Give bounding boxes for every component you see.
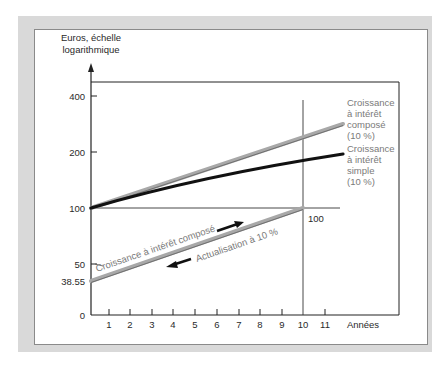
svg-text:Croissance: Croissance	[347, 143, 395, 154]
y-tick-50: 50	[74, 259, 85, 270]
svg-text:9: 9	[279, 319, 284, 330]
y-tick-400: 400	[69, 91, 85, 102]
svg-text:2: 2	[127, 319, 132, 330]
x-ticks	[109, 309, 325, 315]
svg-text:10: 10	[298, 319, 309, 330]
x-tick-labels: 1 2 3 4 5 6 7 8 9 10 11	[106, 319, 330, 330]
svg-text:à intérêt: à intérêt	[347, 108, 382, 119]
discount-line-shadow	[91, 210, 303, 283]
y-tick-100: 100	[69, 203, 85, 214]
svg-text:à intérêt: à intérêt	[347, 154, 382, 165]
growth-label: Croissance à intérêt composé	[94, 223, 216, 274]
compound-growth-line	[91, 124, 343, 208]
y-tick-0: 0	[80, 310, 85, 321]
y-axis-arrow-icon	[88, 63, 94, 72]
y-tick-200: 200	[69, 147, 85, 158]
svg-text:(10 %): (10 %)	[347, 176, 375, 187]
y-tick-38-55: 38.55	[61, 276, 85, 287]
y-axis-label-line1: Euros, échelle	[61, 32, 121, 43]
y-axis-label-line2: logarithmique	[62, 44, 119, 55]
svg-text:(10 %): (10 %)	[347, 130, 375, 141]
svg-text:5: 5	[192, 319, 197, 330]
svg-text:8: 8	[257, 319, 262, 330]
simple-series-label: Croissance à intérêt simple (10 %)	[347, 143, 395, 187]
svg-text:11: 11	[320, 319, 330, 330]
svg-text:4: 4	[170, 319, 175, 330]
chart: Euros, échelle logarithmique 400 200 100…	[0, 0, 440, 368]
compound-series-label: Croissance à intérêt composé (10 %)	[347, 97, 395, 141]
simple-growth-line	[91, 154, 343, 208]
svg-text:1: 1	[106, 319, 111, 330]
y-ticks: 400 200 100 50 38.55 0	[61, 91, 97, 321]
svg-text:3: 3	[149, 319, 154, 330]
svg-text:Croissance: Croissance	[347, 97, 395, 108]
svg-text:composé: composé	[347, 119, 386, 130]
discount-arrow-icon	[166, 259, 191, 268]
discount-line	[91, 208, 303, 281]
reference-100-label: 100	[308, 213, 324, 224]
svg-text:7: 7	[236, 319, 241, 330]
svg-text:6: 6	[214, 319, 219, 330]
x-axis-label: Années	[347, 319, 379, 330]
svg-text:simple: simple	[347, 165, 374, 176]
